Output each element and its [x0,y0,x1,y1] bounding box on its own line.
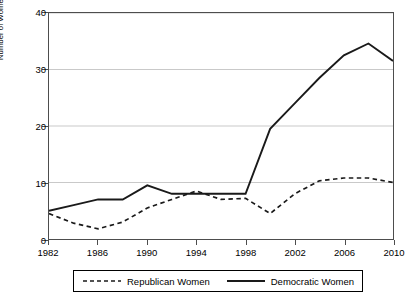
legend-entry-republican: Republican Women [82,276,210,287]
legend-swatch-dashed [82,277,122,285]
x-tick-label: 1994 [176,247,216,258]
x-tick-label: 1986 [77,247,117,258]
x-tick-label: 2010 [374,247,412,258]
x-tick-mark [295,240,296,245]
x-tick-label: 2006 [325,247,365,258]
x-tick-mark [246,240,247,245]
legend-label-democratic: Democratic Women [271,276,354,287]
x-tick-mark [394,240,395,245]
x-tick-label: 2002 [275,247,315,258]
x-tick-label: 1990 [127,247,167,258]
legend-label-republican: Republican Women [127,276,210,287]
x-tick-mark [97,240,98,245]
x-tick-label: 1998 [226,247,266,258]
x-tick-mark [48,240,49,245]
legend-swatch-solid [226,277,266,285]
legend-entry-democratic: Democratic Women [226,276,354,287]
x-axis-ticks: 19821986199019941998200220062010 [0,0,412,299]
x-tick-mark [147,240,148,245]
chart-figure: Number of Women with 4+ Terms in Office … [0,0,412,299]
x-tick-mark [345,240,346,245]
x-tick-label: 1982 [28,247,68,258]
x-tick-mark [196,240,197,245]
chart-legend: Republican Women Democratic Women [73,270,363,292]
